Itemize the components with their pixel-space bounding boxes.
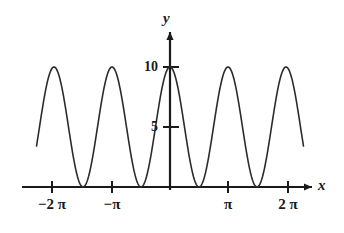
figure-container: y x 10 5 −2 π −π π 2 π [0, 0, 344, 233]
y-tick-label-10: 10 [124, 60, 158, 74]
x-tick-label-pi: π [198, 197, 258, 212]
y-tick-label-5: 5 [124, 120, 158, 134]
x-axis-arrowhead [304, 183, 312, 190]
x-axis-label: x [318, 178, 326, 193]
y-axis-arrowhead [166, 32, 173, 40]
x-tick-label-minus-pi: −π [82, 197, 142, 212]
y-axis-label: y [163, 11, 170, 26]
x-tick-label-minus-2pi: −2 π [22, 197, 82, 212]
x-tick-label-2pi: 2 π [258, 197, 318, 212]
